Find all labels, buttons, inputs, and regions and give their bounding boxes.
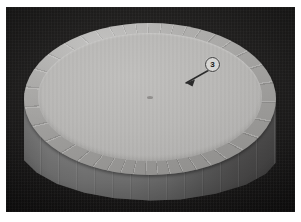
- figure-frame: 3: [0, 0, 301, 222]
- photograph: 3: [6, 7, 295, 212]
- callout-badge-3: 3: [205, 57, 220, 72]
- center-dot: [147, 96, 153, 99]
- inner-flat-disc: [38, 33, 262, 161]
